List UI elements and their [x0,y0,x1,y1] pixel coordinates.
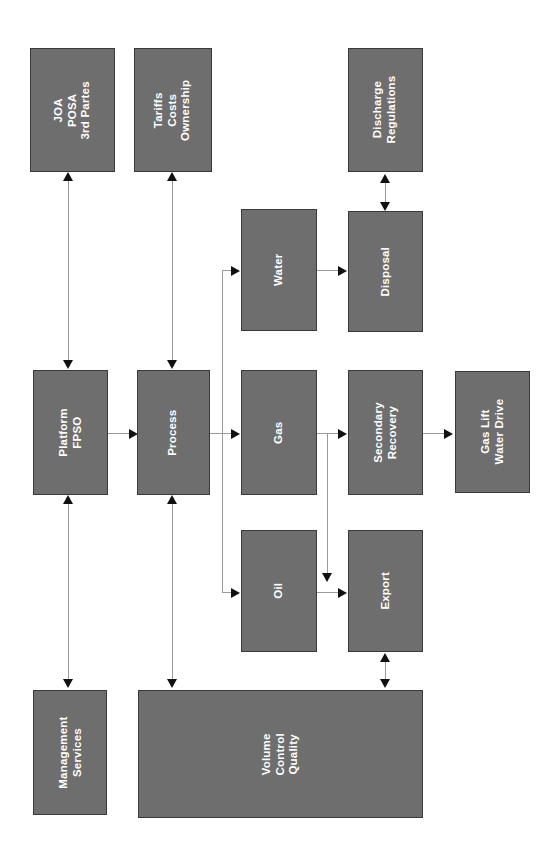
node-secondary-line1: Secondary [372,402,384,463]
node-discharge-line1: Discharge [372,81,384,138]
edge-gas-export-arrow [322,573,332,582]
node-export-label: Export [379,572,393,610]
node-platform-line1: Platform [57,408,69,456]
edge-process-tariffs-arrow-down [167,360,177,369]
edge-oil-export-arrow [338,588,347,598]
edge-platform-joa-arrow-down [63,360,73,369]
node-tariffs-line1: Tariffs [153,92,165,128]
edge-gas-export-vertical [327,433,328,581]
edge-process-tariffs-line [172,176,173,366]
node-tariffs-line3: Ownership [180,79,192,140]
node-joa-label: JOA POSA 3rd Partes [52,81,93,139]
node-vcq-line3: Quality [287,734,299,774]
node-management-services[interactable]: Management Services [33,690,107,815]
node-platform-fpso[interactable]: Platform FPSO [33,370,108,495]
node-secondary-recovery[interactable]: Secondary Recovery [348,370,423,495]
edge-process-bus-stub [210,433,222,434]
edge-platform-joa-arrow-up [63,172,73,181]
edge-process-bus-vertical [222,270,223,592]
edge-process-oil-arrow [231,588,240,598]
node-discharge-label: Discharge Regulations [372,76,399,144]
edge-process-water-arrow [231,266,240,276]
edge-process-vcq-arrow-up [167,495,177,504]
node-water[interactable]: Water [241,209,317,331]
node-tariffs-costs-ownership[interactable]: Tariffs Costs Ownership [134,48,212,172]
node-management-line1: Management [56,716,68,788]
node-export[interactable]: Export [348,530,423,652]
node-process-label: Process [167,409,181,455]
node-joa-line3: 3rd Partes [79,81,91,139]
node-gas-label: Gas [272,421,286,443]
edge-process-gas-arrow [231,429,240,439]
node-water-label: Water [272,254,286,287]
node-vcq-label: Volume Control Quality [260,733,301,775]
edge-process-vcq-arrow-down [167,679,177,688]
node-vcq-line2: Control [274,733,286,775]
node-gas-lift-water-drive[interactable]: Gas Lift Water Drive [455,371,530,493]
edge-export-vcq-arrow-down [380,679,390,688]
node-secondary-line2: Recovery [385,406,397,459]
edge-platform-management-arrow-down [63,679,73,688]
node-gaslift-label: Gas Lift Water Drive [479,399,506,465]
node-gas[interactable]: Gas [241,370,317,495]
node-disposal[interactable]: Disposal [348,211,423,332]
edge-gas-secondary-arrow [338,429,347,439]
node-oil-label: Oil [272,583,286,599]
node-volume-control-quality[interactable]: Volume Control Quality [138,690,423,818]
node-disposal-label: Disposal [379,247,393,297]
diagram-canvas: JOA POSA 3rd Partes Tariffs Costs Owners… [0,0,559,863]
node-management-label: Management Services [56,716,83,788]
edge-export-vcq-arrow-up [380,653,390,662]
node-tariffs-label: Tariffs Costs Ownership [153,79,194,140]
edge-platform-joa-line [68,176,69,366]
edge-platform-management-line [68,499,69,685]
node-oil[interactable]: Oil [241,530,317,652]
edge-secondary-gaslift-arrow [444,429,453,439]
node-joa-line1: JOA [52,98,64,122]
node-platform-label: Platform FPSO [57,408,84,456]
edge-water-disposal-arrow [338,266,347,276]
edge-platform-management-arrow-up [63,495,73,504]
node-vcq-line1: Volume [260,733,272,775]
node-secondary-label: Secondary Recovery [372,402,399,463]
node-joa-line2: POSA [66,93,78,126]
edge-disposal-discharge-arrow-up [380,174,390,183]
node-discharge-regulations[interactable]: Discharge Regulations [348,48,423,172]
edge-process-vcq-line [172,499,173,685]
node-gaslift-line2: Water Drive [493,399,505,465]
edge-disposal-discharge-arrow-down [380,202,390,211]
edge-process-tariffs-arrow-up [167,172,177,181]
node-platform-line2: FPSO [71,416,83,448]
node-management-line2: Services [70,728,82,777]
node-gaslift-line1: Gas Lift [479,410,491,454]
node-process[interactable]: Process [137,370,210,495]
node-joa-posa-3rd-partes[interactable]: JOA POSA 3rd Partes [30,48,115,172]
node-discharge-line2: Regulations [385,76,397,144]
node-tariffs-line2: Costs [166,94,178,127]
